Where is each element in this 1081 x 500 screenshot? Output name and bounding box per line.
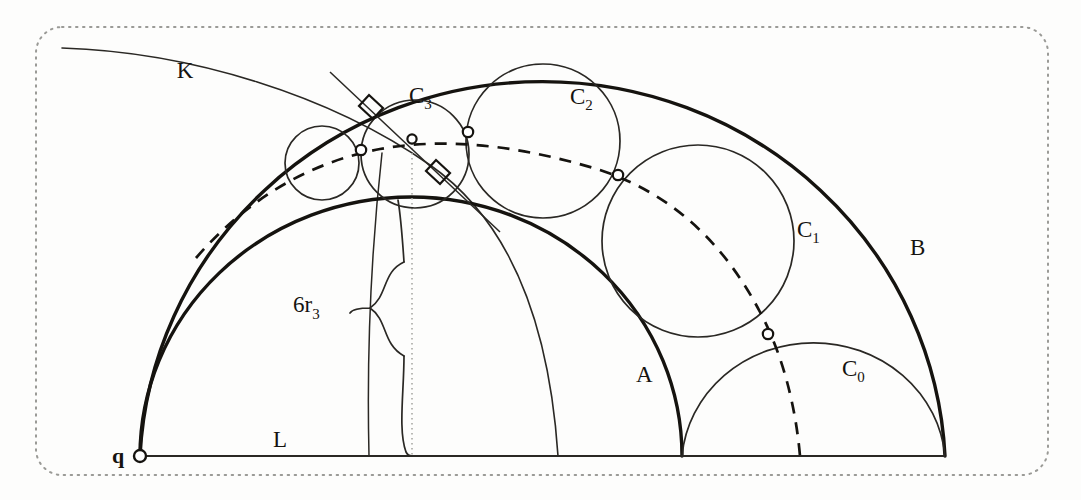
tangency-point-t2 [463, 127, 473, 137]
label-q: q [112, 443, 125, 468]
figure-root: K C3 C2 C1 C0 B A L q 6r3 [0, 0, 1081, 500]
tangency-point-t0 [763, 329, 773, 339]
label-L: L [273, 427, 287, 452]
label-C0: C0 [842, 356, 865, 385]
circle-C1 [602, 145, 794, 337]
label-C1: C1 [797, 217, 820, 246]
geometry-figure: K C3 C2 C1 C0 B A L q 6r3 [0, 0, 1081, 500]
label-A: A [636, 362, 653, 387]
curve-K [62, 48, 558, 456]
point-q-marker [134, 450, 146, 462]
dotted-rounded-border [36, 27, 1048, 475]
brace-6r3 [350, 262, 404, 356]
right-angle-mark-lower [426, 160, 450, 184]
dashed-tangency-arc [196, 144, 800, 456]
tangency-point-t3 [356, 145, 366, 155]
label-C2: C2 [570, 84, 593, 113]
label-C3: C3 [409, 83, 432, 112]
label-K: K [177, 58, 194, 83]
label-6r3: 6r3 [293, 292, 320, 322]
circle-C2 [466, 64, 620, 218]
brace-6r3-lower-stem [398, 200, 412, 456]
label-B: B [910, 235, 925, 260]
tangency-point-t1 [613, 170, 623, 180]
semicircle-C0 [682, 343, 945, 456]
semicircle-B [140, 82, 945, 456]
tangency-point-center [407, 134, 416, 143]
